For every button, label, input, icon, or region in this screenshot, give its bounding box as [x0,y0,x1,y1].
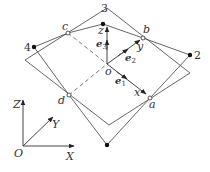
label-e2: e2 [125,52,136,65]
rotation-diagram: 3 4 2 a b c d o z y x e3 e2 e1 O X Y Z [0,0,210,172]
node-2-dot [188,53,192,57]
dashed-d-o [69,64,107,95]
node-bottom-dot [105,143,109,147]
label-O: O [14,147,23,160]
label-3: 3 [101,2,108,15]
label-Y: Y [52,118,61,131]
label-o: o [105,65,112,78]
label-2: 2 [194,49,201,62]
label-X: X [65,150,75,163]
label-z: z [97,24,104,37]
global-Y-axis [23,117,53,146]
node-4-dot [32,45,36,49]
label-x: x [134,86,141,99]
label-b: b [143,23,150,36]
node-d-circle [67,93,71,97]
label-c: c [62,20,68,33]
label-Z: Z [12,98,21,111]
label-4: 4 [24,41,31,54]
edge-4-c-3 [34,24,103,47]
label-d: d [58,94,65,107]
label-e3: e3 [96,38,107,51]
label-y: y [136,40,144,53]
label-a: a [149,98,156,111]
